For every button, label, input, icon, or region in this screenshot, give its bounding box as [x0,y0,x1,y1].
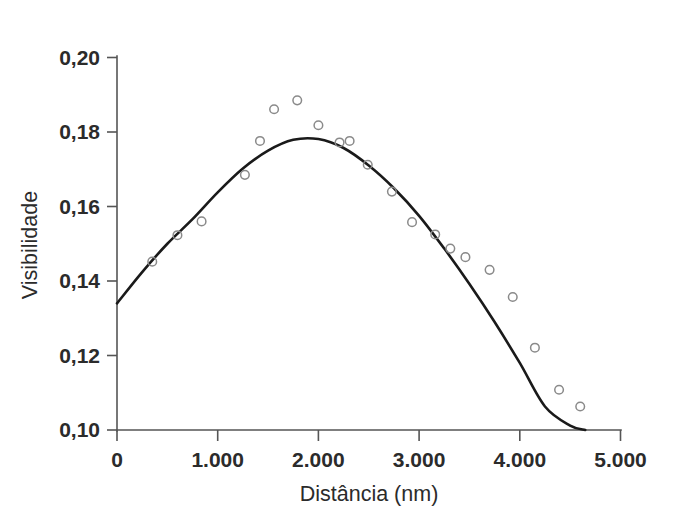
y-axis-title: Visibilidade [18,191,42,299]
y-tick-label: 0,20 [59,46,100,69]
x-tick-label: 4.000 [494,448,547,471]
chart-figure: 0,100,120,140,160,180,20 Visibilidade 01… [0,0,677,532]
y-tick-label: 0,16 [59,195,100,218]
x-axis-title: Distância (nm) [300,482,439,506]
x-tick-label: 2.000 [292,448,345,471]
y-tick-label: 0,18 [59,120,100,143]
y-tick-label: 0,14 [59,269,100,292]
y-tick-label: 0,10 [59,418,100,441]
y-tick-label: 0,12 [59,344,100,367]
x-tick-label: 1.000 [191,448,244,471]
x-tick-label: 0 [111,448,123,471]
x-tick-label: 3.000 [393,448,446,471]
visibility-vs-distance-scatter-plot: 0,100,120,140,160,180,20 Visibilidade 01… [0,0,677,532]
x-tick-label: 5.000 [594,448,647,471]
